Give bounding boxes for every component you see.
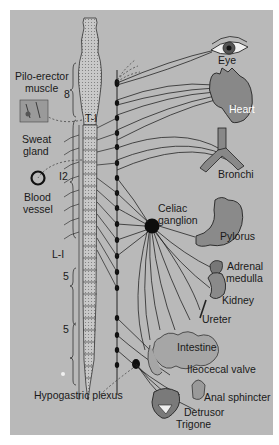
label-adrenal-2: medulla	[226, 272, 263, 284]
label-pilo-erector-2: muscle	[25, 82, 58, 94]
segment-braces	[70, 63, 76, 385]
label-intestine: Intestine	[177, 341, 217, 353]
label-bronchi: Bronchi	[218, 168, 254, 180]
sympathetic-nervous-system-diagram: Pilo-erector muscle 8 T-I Sweat gland I2…	[0, 0, 279, 445]
label-ureter: Ureter	[202, 313, 232, 325]
label-trigone: Trigone	[176, 418, 211, 430]
label-sweat-2: gland	[23, 145, 49, 157]
label-sacral-5: 5	[63, 323, 69, 335]
label-seg-12: I2	[59, 170, 68, 182]
label-celiac-1: Celiac	[158, 202, 187, 214]
label-hypogastric: Hypogastric plexus	[34, 389, 123, 401]
label-celiac-2: ganglion	[158, 214, 198, 226]
label-l1: L-I	[52, 248, 64, 260]
label-heart: Heart	[229, 103, 255, 115]
label-seg-8: 8	[64, 88, 70, 100]
bladder-illustration	[152, 389, 180, 419]
label-detrusor: Detrusor	[184, 406, 225, 418]
eye-illustration	[211, 36, 248, 54]
label-ileocecal: Ileocecal valve	[187, 363, 256, 375]
label-blood-1: Blood	[24, 191, 51, 203]
label-adrenal-1: Adrenal	[227, 260, 263, 272]
label-lumbar-5: 5	[63, 270, 69, 282]
adrenal-kidney-illustration	[200, 261, 226, 318]
label-t1: T-I	[85, 112, 97, 124]
label-kidney: Kidney	[222, 294, 255, 306]
skin-illustration	[20, 100, 48, 122]
label-pilo-erector-1: Pilo-erector	[15, 70, 69, 82]
label-eye: Eye	[218, 54, 236, 66]
label-pylorus: Pylorus	[220, 230, 255, 242]
dot-marker	[61, 372, 65, 376]
label-blood-2: vessel	[23, 203, 53, 215]
bronchi-illustration	[200, 128, 244, 172]
label-anal-sphincter: Anal sphincter	[204, 391, 271, 403]
spinal-cord	[64, 18, 102, 400]
label-sweat-1: Sweat	[22, 133, 51, 145]
